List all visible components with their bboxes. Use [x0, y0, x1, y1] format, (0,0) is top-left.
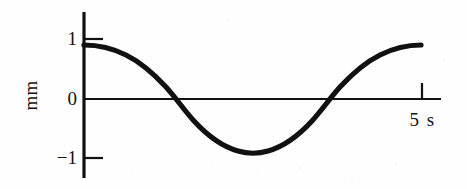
- y-tick-label-1: 1: [55, 29, 77, 48]
- y-tick-label-0: 0: [55, 89, 77, 108]
- y-tick-label-neg1: −1: [44, 148, 77, 167]
- y-axis-title: mm: [21, 74, 40, 118]
- x-tick-label-5s: 5 s: [400, 110, 445, 129]
- waveform-figure: mm 1 0 −1 5 s: [0, 0, 467, 189]
